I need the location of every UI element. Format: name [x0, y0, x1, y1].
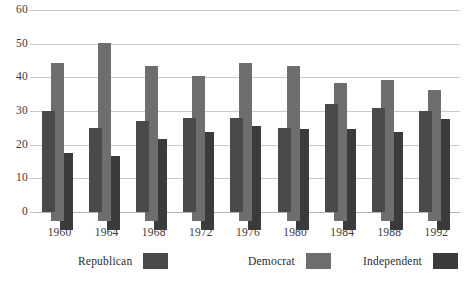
bar-republican-1984 — [325, 104, 338, 212]
bar-group — [278, 10, 325, 212]
bar-republican-1960 — [42, 111, 55, 212]
legend-swatch — [433, 253, 458, 269]
chart-legend: RepublicanDemocratIndependent — [0, 250, 466, 276]
legend-entry-democrat[interactable]: Democrat — [248, 250, 331, 272]
y-tick-mark — [30, 145, 36, 146]
legend-swatch — [143, 253, 168, 269]
y-tick-mark — [30, 212, 36, 213]
y-axis-tick-label: 20 — [0, 139, 28, 151]
bar-republican-1964 — [89, 128, 102, 212]
y-axis-tick-label: 40 — [0, 71, 28, 83]
bar-group — [325, 10, 372, 212]
y-axis-tick-label: 50 — [0, 38, 28, 50]
bar-group — [230, 10, 277, 212]
legend-entry-republican[interactable]: Republican — [78, 250, 168, 272]
y-tick-mark — [30, 111, 36, 112]
y-axis-tick-label: 10 — [0, 172, 28, 184]
bar-republican-1992 — [419, 111, 432, 212]
legend-label: Democrat — [248, 255, 295, 267]
legend-label: Republican — [78, 255, 132, 267]
y-tick-mark — [30, 77, 36, 78]
bar-group — [42, 10, 89, 212]
bar-group — [372, 10, 419, 212]
bar-group — [89, 10, 136, 212]
bar-group — [136, 10, 183, 212]
y-axis-tick-label: 0 — [0, 206, 28, 218]
y-axis-tick-label: 60 — [0, 4, 28, 16]
bar-chart: 0102030405060 19601964196819721976198019… — [0, 0, 466, 283]
y-axis-tick-label: 30 — [0, 105, 28, 117]
bar-republican-1972 — [183, 118, 196, 212]
bar-republican-1988 — [372, 108, 385, 212]
y-tick-mark — [30, 44, 36, 45]
bar-group — [183, 10, 230, 212]
legend-label: Independent — [363, 255, 422, 267]
legend-swatch — [306, 253, 331, 269]
legend-entry-independent[interactable]: Independent — [363, 250, 458, 272]
y-tick-mark — [30, 178, 36, 179]
bar-group — [419, 10, 466, 212]
bar-republican-1968 — [136, 121, 149, 212]
bar-republican-1976 — [230, 118, 243, 212]
plot-area: 0102030405060 — [36, 10, 460, 212]
y-tick-mark — [30, 10, 36, 11]
bar-republican-1980 — [278, 128, 291, 212]
